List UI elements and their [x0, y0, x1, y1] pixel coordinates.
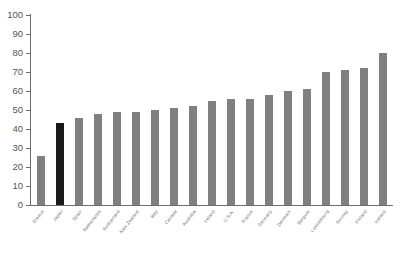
bar-highlighted: [56, 123, 64, 205]
x-axis-label-slot: Ireland: [202, 207, 221, 253]
y-axis-tick: 50: [0, 104, 30, 116]
y-axis-tick: 10: [0, 180, 30, 192]
x-axis-label-slot: Luxembourg: [317, 207, 336, 253]
y-axis-tick: 90: [0, 28, 30, 40]
y-axis-tick: 80: [0, 47, 30, 59]
x-axis-category-label: Norway: [335, 209, 350, 225]
y-axis-tick: 40: [0, 123, 30, 135]
x-axis-category-label: Denmark: [276, 209, 293, 228]
y-axis-tick-label: 60: [12, 85, 23, 97]
bar: [208, 101, 216, 206]
y-axis-tick-label: 30: [12, 142, 23, 154]
bar: [246, 99, 254, 205]
bar-slot: [336, 15, 355, 205]
x-axis-label-slot: France: [241, 207, 260, 253]
y-axis-tick-label: 70: [12, 66, 23, 78]
bar: [303, 89, 311, 205]
x-axis-label-slot: Norway: [336, 207, 355, 253]
y-axis-tick-mark: [26, 34, 30, 35]
bar: [94, 114, 102, 205]
bar: [151, 110, 159, 205]
bar: [322, 72, 330, 205]
y-axis-tick-mark: [26, 148, 30, 149]
x-axis-category-label: Japan: [52, 209, 65, 223]
bar-slot: [260, 15, 279, 205]
bar: [265, 95, 273, 205]
x-axis-category-label: U.S.A.: [222, 209, 235, 224]
y-axis-tick-mark: [26, 167, 30, 168]
bar-slot: [183, 15, 202, 205]
y-axis-tick: 70: [0, 66, 30, 78]
x-axis-category-label: Canada: [164, 209, 179, 226]
y-axis-tick-mark: [26, 129, 30, 130]
x-axis-category-label: Finland: [355, 209, 369, 225]
x-axis-label-slot: Iceland: [374, 207, 393, 253]
x-axis-category-label: Australia: [181, 209, 197, 227]
x-axis-category-label: Belgium: [297, 209, 312, 226]
bar: [227, 99, 235, 205]
bar-slot: [145, 15, 164, 205]
bar-slot: [298, 15, 317, 205]
y-axis-tick: 20: [0, 161, 30, 173]
bar-slot: [222, 15, 241, 205]
bar-slot: [241, 15, 260, 205]
bar-slot: [69, 15, 88, 205]
x-axis-label-slot: Greece: [31, 207, 50, 253]
y-axis-tick-label: 0: [18, 199, 23, 211]
bar: [75, 118, 83, 205]
bar-chart: 0102030405060708090100 GreeceJapanSpainN…: [0, 0, 400, 253]
x-axis-category-label: Ireland: [203, 209, 217, 224]
x-axis-label-slot: Canada: [164, 207, 183, 253]
x-axis-category-label: Spain: [71, 209, 83, 222]
y-axis-tick-label: 80: [12, 47, 23, 59]
y-axis-tick: 60: [0, 85, 30, 97]
x-axis-labels: GreeceJapanSpainNetherlandsSwitzerlandNe…: [31, 207, 393, 253]
bar: [284, 91, 292, 205]
plot-area: [31, 15, 393, 205]
bar: [170, 108, 178, 205]
x-axis-category-label: Germany: [257, 209, 274, 228]
bar: [379, 53, 387, 205]
x-axis-category-label: Italy: [149, 209, 159, 220]
x-axis-label-slot: Germany: [260, 207, 279, 253]
bar-slot: [50, 15, 69, 205]
y-axis-tick-label: 100: [7, 9, 23, 21]
y-axis-tick-mark: [26, 205, 30, 206]
x-axis-label-slot: New Zealand: [126, 207, 145, 253]
bar: [132, 112, 140, 205]
y-axis-tick: 30: [0, 142, 30, 154]
x-axis-label-slot: Denmark: [279, 207, 298, 253]
bar: [360, 68, 368, 205]
x-axis-category-label: France: [241, 209, 255, 224]
x-axis-baseline: [30, 205, 393, 206]
y-axis-tick-mark: [26, 15, 30, 16]
x-axis-category-label: Iceland: [374, 209, 388, 225]
y-axis-tick-label: 10: [12, 180, 23, 192]
y-axis-tick-mark: [26, 91, 30, 92]
bar-slot: [202, 15, 221, 205]
bar-slot: [107, 15, 126, 205]
y-axis-tick-label: 20: [12, 161, 23, 173]
bar-slot: [88, 15, 107, 205]
y-axis-tick-mark: [26, 53, 30, 54]
x-axis-label-slot: Japan: [50, 207, 69, 253]
x-axis-label-slot: Australia: [183, 207, 202, 253]
bar: [37, 156, 45, 205]
y-axis-tick-mark: [26, 72, 30, 73]
y-axis-tick-label: 40: [12, 123, 23, 135]
x-axis-label-slot: U.S.A.: [222, 207, 241, 253]
x-axis-category-label: Greece: [31, 209, 45, 225]
x-axis-label-slot: Italy: [145, 207, 164, 253]
bar-slot: [317, 15, 336, 205]
bar-slot: [126, 15, 145, 205]
y-axis-tick-label: 50: [12, 104, 23, 116]
y-axis-tick-mark: [26, 186, 30, 187]
bar-slot: [164, 15, 183, 205]
y-axis-tick-mark: [26, 110, 30, 111]
bar-slot: [279, 15, 298, 205]
x-axis-label-slot: Finland: [355, 207, 374, 253]
bar-slot: [374, 15, 393, 205]
y-axis-tick-label: 90: [12, 28, 23, 40]
bar: [341, 70, 349, 205]
bar-slot: [355, 15, 374, 205]
